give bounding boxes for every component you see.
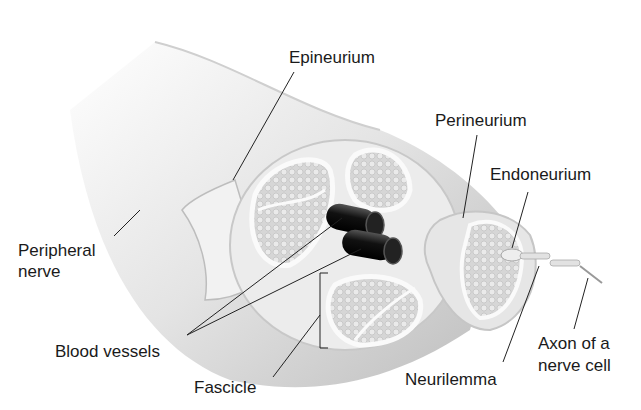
fascicle-bottom (328, 277, 421, 345)
label-neurilemma: Neurilemma (405, 369, 497, 390)
label-fascicle: Fascicle (194, 377, 256, 398)
label-axon-line1: Axon of a (538, 333, 610, 354)
label-peripheral-nerve-line1: Peripheral (18, 240, 96, 261)
label-peripheral-nerve-line2: nerve (18, 261, 61, 282)
label-endoneurium: Endoneurium (490, 164, 591, 185)
label-perineurium: Perineurium (435, 110, 527, 131)
nerve-diagram: Epineurium Perineurium Endoneurium Perip… (0, 0, 641, 410)
label-blood-vessels: Blood vessels (55, 341, 160, 362)
label-axon-line2: nerve cell (538, 355, 611, 376)
label-epineurium: Epineurium (289, 47, 375, 68)
